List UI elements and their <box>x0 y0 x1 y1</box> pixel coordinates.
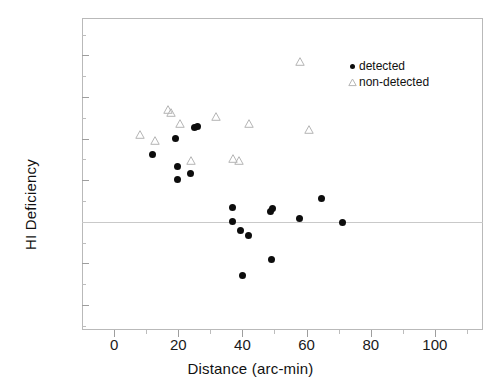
data-point-detected <box>239 272 246 279</box>
data-point-detected <box>194 123 201 130</box>
data-point-non-detected <box>296 61 304 69</box>
data-point-detected <box>149 151 156 158</box>
data-point-non-detected <box>235 160 243 168</box>
x-axis-title: Distance (arc-min) <box>0 360 501 377</box>
x-minor-tick <box>403 330 404 334</box>
legend: detected non-detected <box>345 58 429 90</box>
filled-circle-icon <box>345 59 359 73</box>
data-point-detected <box>296 215 303 222</box>
legend-item-non-detected: non-detected <box>345 74 429 90</box>
x-tick-label: 100 <box>405 336 465 353</box>
x-minor-tick <box>210 330 211 334</box>
x-minor-tick <box>467 330 468 334</box>
data-point-detected <box>269 205 276 212</box>
zero-reference-line <box>82 222 483 223</box>
x-tick-label: 20 <box>148 336 208 353</box>
data-point-detected <box>339 219 346 226</box>
data-point-non-detected <box>151 140 159 148</box>
data-point-detected <box>268 256 275 263</box>
data-point-detected <box>318 195 325 202</box>
x-tick-label: 0 <box>84 336 144 353</box>
data-point-detected <box>245 232 252 239</box>
data-point-non-detected <box>135 134 143 142</box>
data-point-detected <box>174 163 181 170</box>
data-point-non-detected <box>212 116 220 124</box>
legend-label-detected: detected <box>359 59 405 73</box>
open-triangle-icon <box>345 75 359 89</box>
data-point-non-detected <box>166 112 174 120</box>
data-point-detected <box>237 227 244 234</box>
data-point-detected <box>172 135 179 142</box>
data-point-detected <box>229 218 236 225</box>
data-point-non-detected <box>176 123 184 131</box>
x-tick-label: 40 <box>212 336 272 353</box>
x-minor-tick <box>339 330 340 334</box>
figure-scatter-plot: HI Deficiency Distance (arc-min) detecte… <box>0 0 501 392</box>
data-point-detected <box>229 204 236 211</box>
x-tick-label: 80 <box>341 336 401 353</box>
data-point-non-detected <box>245 123 253 131</box>
x-minor-tick <box>274 330 275 334</box>
data-point-non-detected <box>305 129 313 137</box>
y-axis-title: HI Deficiency <box>22 159 39 250</box>
legend-label-non-detected: non-detected <box>359 75 429 89</box>
data-point-non-detected <box>187 160 195 168</box>
data-point-detected <box>174 176 181 183</box>
x-minor-tick <box>146 330 147 334</box>
x-tick-label: 60 <box>277 336 337 353</box>
data-point-detected <box>187 170 194 177</box>
legend-item-detected: detected <box>345 58 429 74</box>
